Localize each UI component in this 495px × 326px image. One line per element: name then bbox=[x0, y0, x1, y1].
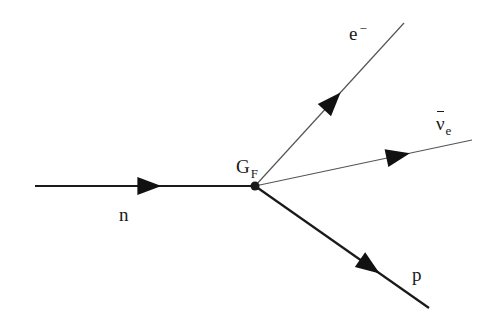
label-neutron: n bbox=[119, 205, 129, 224]
line-antineutrino bbox=[255, 140, 472, 186]
label-electron: e− bbox=[349, 24, 367, 43]
label-antineutrino: νe bbox=[436, 114, 451, 133]
interaction-vertex bbox=[251, 182, 260, 191]
line-proton bbox=[255, 186, 429, 308]
arrow-proton-icon bbox=[355, 252, 385, 281]
arrow-neutron-icon bbox=[137, 177, 161, 195]
direction-arrows bbox=[137, 86, 411, 280]
vertex-label-gf: GF bbox=[236, 157, 258, 176]
arrow-antineutrino-icon bbox=[385, 144, 412, 167]
label-proton: p bbox=[412, 265, 422, 284]
